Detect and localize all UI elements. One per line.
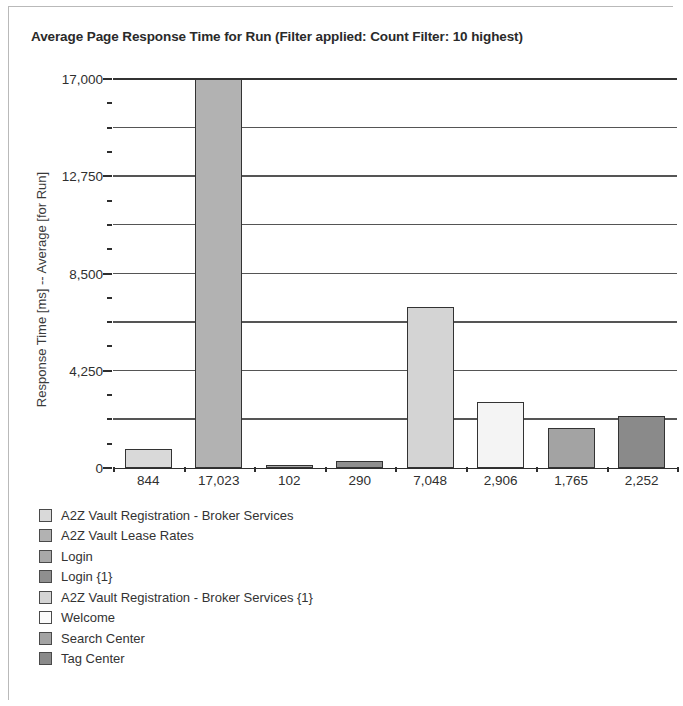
- bar-slot: [548, 79, 595, 468]
- legend-item-label: Login {1}: [61, 570, 112, 583]
- legend-item-label: A2Z Vault Registration - Broker Services: [61, 509, 293, 522]
- x-axis-tick-label: 2,252: [607, 473, 678, 488]
- bar-slot: [336, 79, 383, 468]
- legend-item-label: Welcome: [61, 611, 115, 624]
- bar-slot: [195, 79, 242, 468]
- legend-item-label: Login: [61, 550, 93, 563]
- y-axis-tick-minor: [107, 248, 112, 250]
- y-axis-tick-major: [103, 370, 112, 372]
- bar-slot: [618, 79, 665, 468]
- y-axis-tick-label: 0: [23, 461, 103, 476]
- legend-swatch-icon: [39, 632, 52, 645]
- x-axis-tick: [113, 467, 115, 472]
- y-axis-tick-minor: [107, 200, 112, 202]
- legend-item-label: A2Z Vault Lease Rates: [61, 529, 194, 542]
- y-axis-tick-label: 8,500: [23, 266, 103, 281]
- bar-slot: [407, 79, 454, 468]
- y-axis-tick-minor: [107, 102, 112, 104]
- legend-swatch-icon: [39, 611, 52, 624]
- y-axis-tick-minor: [107, 443, 112, 445]
- x-axis-tick-label: 844: [113, 473, 184, 488]
- y-axis-tick-labels: 04,2508,50012,75017,000: [19, 79, 103, 468]
- legend-swatch-icon: [39, 509, 52, 522]
- y-axis-tick-major: [103, 175, 112, 177]
- bar[interactable]: [125, 449, 172, 468]
- y-axis-tick-minor: [107, 127, 112, 129]
- legend-swatch-icon: [39, 550, 52, 563]
- x-axis-tick: [607, 467, 609, 472]
- bar[interactable]: [407, 307, 454, 468]
- legend-swatch-icon: [39, 652, 52, 665]
- legend-item[interactable]: Tag Center: [39, 649, 639, 670]
- bar[interactable]: [266, 465, 313, 468]
- bar-series: [113, 79, 677, 468]
- legend-swatch-icon: [39, 529, 52, 542]
- bar-slot: [477, 79, 524, 468]
- x-axis-tick: [184, 467, 186, 472]
- x-axis-tick-label: 7,048: [395, 473, 466, 488]
- bar[interactable]: [477, 402, 524, 468]
- x-axis-tick: [395, 467, 397, 472]
- legend-item[interactable]: A2Z Vault Registration - Broker Services: [39, 505, 639, 526]
- legend-swatch-icon: [39, 570, 52, 583]
- y-axis-tick-label: 4,250: [23, 363, 103, 378]
- legend-item[interactable]: A2Z Vault Registration - Broker Services…: [39, 587, 639, 608]
- legend-item[interactable]: Login {1}: [39, 567, 639, 588]
- bar-slot: [125, 79, 172, 468]
- legend-item[interactable]: Login: [39, 546, 639, 567]
- y-axis-tick-minor: [107, 321, 112, 323]
- legend-item[interactable]: Search Center: [39, 628, 639, 649]
- bar[interactable]: [548, 428, 595, 468]
- page-title: Average Page Response Time for Run (Filt…: [31, 29, 523, 44]
- chart-legend: A2Z Vault Registration - Broker Services…: [39, 505, 639, 669]
- y-axis-tick-minor: [107, 345, 112, 347]
- y-axis-tick-minor: [107, 151, 112, 153]
- x-axis-tick-label: 290: [325, 473, 396, 488]
- bar[interactable]: [618, 416, 665, 468]
- y-axis-tick-major: [103, 273, 112, 275]
- chart-panel: Average Page Response Time for Run (Filt…: [8, 6, 673, 700]
- legend-item-label: Tag Center: [61, 652, 125, 665]
- x-axis-tick-labels: 84417,0231022907,0482,9061,7652,252: [113, 471, 677, 497]
- x-axis-tick-label: 102: [254, 473, 325, 488]
- y-axis-tick-label: 12,750: [23, 169, 103, 184]
- bar[interactable]: [195, 79, 242, 468]
- y-axis-tick-major: [103, 78, 112, 80]
- x-axis-tick-label: 2,906: [466, 473, 537, 488]
- legend-item[interactable]: A2Z Vault Lease Rates: [39, 526, 639, 547]
- bar[interactable]: [336, 461, 383, 468]
- x-axis-tick: [254, 467, 256, 472]
- x-axis-tick: [536, 467, 538, 472]
- y-axis-tick-minor: [107, 394, 112, 396]
- bar-slot: [266, 79, 313, 468]
- y-axis-tick-minor: [107, 224, 112, 226]
- y-axis-tick-major: [103, 467, 112, 469]
- legend-item-label: A2Z Vault Registration - Broker Services…: [61, 591, 313, 604]
- legend-swatch-icon: [39, 591, 52, 604]
- y-axis-tick-minor: [107, 418, 112, 420]
- y-axis-tick-label: 17,000: [23, 72, 103, 87]
- x-axis-tick: [677, 467, 679, 472]
- x-axis-tick-label: 1,765: [536, 473, 607, 488]
- plot-area: [113, 79, 677, 468]
- legend-item-label: Search Center: [61, 632, 145, 645]
- x-axis-tick: [325, 467, 327, 472]
- x-axis-tick: [466, 467, 468, 472]
- x-axis-tick-label: 17,023: [184, 473, 255, 488]
- y-axis-tick-minor: [107, 297, 112, 299]
- legend-item[interactable]: Welcome: [39, 608, 639, 629]
